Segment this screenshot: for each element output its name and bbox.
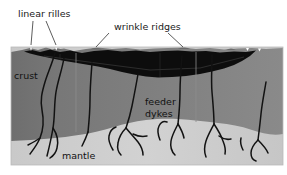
label-wrinkle-ridges: wrinkle ridges: [114, 21, 181, 32]
label-dykes: dykes: [145, 108, 173, 119]
label-crust: crust: [14, 70, 38, 81]
cross-section-diagram: linear rilles wrinkle ridges crust feede…: [0, 0, 287, 175]
label-feeder: feeder: [145, 96, 176, 107]
figure-canvas: linear rilles wrinkle ridges crust feede…: [0, 0, 287, 175]
label-linear-rilles: linear rilles: [18, 8, 71, 19]
label-mantle: mantle: [62, 150, 95, 161]
